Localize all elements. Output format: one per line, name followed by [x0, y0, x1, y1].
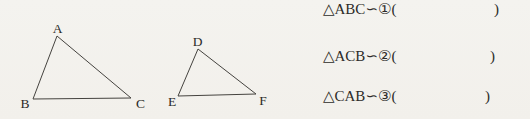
- vertex-label-e: E: [168, 94, 176, 109]
- problem-1-close-paren: ): [494, 1, 499, 18]
- vertex-label-d: D: [193, 34, 203, 49]
- problem-3-statement: △CAB∽③(: [323, 88, 396, 105]
- vertex-label-c: C: [136, 96, 145, 111]
- problem-line-3: △CAB∽③( ): [323, 88, 490, 105]
- problem-line-2: △ACB∽②( ): [323, 48, 495, 65]
- problem-line-1: △ABC∽①( ): [323, 1, 499, 18]
- triangles-figure: A B C D E F: [0, 0, 300, 119]
- worksheet-page: A B C D E F △ABC∽①( ) △ACB∽②( ) △CAB∽③( …: [0, 0, 530, 119]
- problem-1-statement: △ABC∽①(: [323, 1, 396, 18]
- triangle-def-shape: [178, 49, 256, 96]
- triangle-abc-shape: [33, 36, 131, 99]
- vertex-label-a: A: [53, 21, 63, 36]
- problem-2-statement: △ACB∽②(: [323, 48, 396, 65]
- problem-3-close-paren: ): [485, 88, 490, 105]
- vertex-label-b: B: [20, 96, 29, 111]
- vertex-label-f: F: [259, 93, 267, 108]
- problem-2-close-paren: ): [490, 48, 495, 65]
